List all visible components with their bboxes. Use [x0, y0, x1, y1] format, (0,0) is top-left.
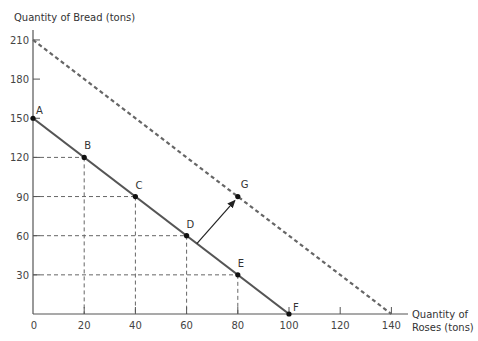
point-g: [235, 194, 240, 199]
x-tick-label: 140: [382, 320, 401, 331]
point-label-g: G: [241, 179, 249, 190]
x-tick-label: 80: [231, 320, 244, 331]
x-axis-label-line1: Quantity of: [412, 309, 469, 320]
point-f: [286, 311, 291, 316]
y-tick-label: 180: [10, 74, 29, 85]
x-tick-label: 40: [129, 320, 142, 331]
y-tick-label: 210: [10, 35, 29, 46]
y-tick-label: 120: [10, 152, 29, 163]
point-d: [184, 233, 189, 238]
point-label-d: D: [187, 219, 195, 230]
point-label-f: F: [293, 302, 299, 313]
ppf-chart: Quantity of Bread (tons)Quantity ofRoses…: [0, 0, 478, 341]
x-tick-label: 20: [78, 320, 91, 331]
point-a: [30, 116, 35, 121]
point-b: [82, 155, 87, 160]
y-tick-label: 150: [10, 113, 29, 124]
point-label-a: A: [36, 105, 43, 116]
x-tick-label: 120: [331, 320, 350, 331]
x-axis-label-line2: Roses (tons): [412, 322, 474, 333]
shifted-ppf-line: [33, 40, 391, 314]
x-tick-label: 60: [180, 320, 193, 331]
point-c: [133, 194, 138, 199]
original-ppf-line: [33, 118, 289, 314]
x-tick-label: 100: [279, 320, 298, 331]
y-tick-label: 30: [16, 270, 29, 281]
y-tick-label: 90: [16, 192, 29, 203]
point-label-b: B: [84, 140, 91, 151]
point-label-c: C: [135, 180, 142, 191]
point-label-e: E: [238, 258, 244, 269]
y-tick-label: 60: [16, 231, 29, 242]
x-tick-label: 0: [31, 320, 37, 331]
shift-arrow: [197, 201, 235, 244]
y-axis-label: Quantity of Bread (tons): [14, 12, 135, 23]
point-e: [235, 272, 240, 277]
